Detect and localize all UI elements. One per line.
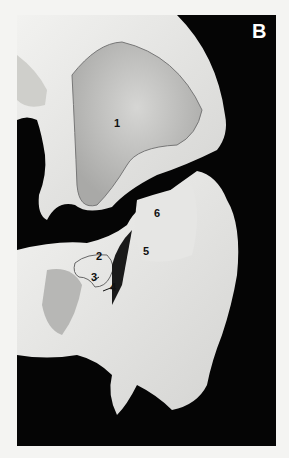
panel-letter: B — [252, 21, 266, 41]
label-2: 2 — [96, 251, 102, 262]
label-1: 1 — [114, 118, 120, 129]
bone-specimen-image — [17, 15, 276, 446]
specimen-photo-panel: B 1 2 3 4 5 6 — [17, 15, 276, 446]
label-5: 5 — [143, 246, 149, 257]
label-4: 4 — [110, 282, 116, 293]
label-3: 3 — [91, 272, 97, 283]
label-6: 6 — [154, 208, 160, 219]
